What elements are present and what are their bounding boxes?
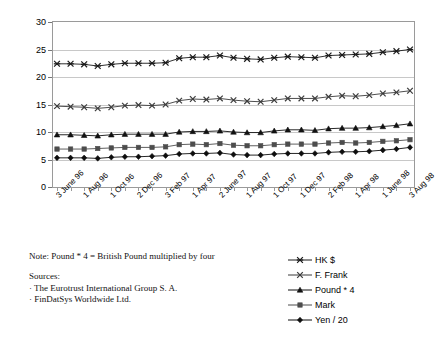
- legend-cross-icon: [287, 269, 313, 281]
- legend-diamond-icon: [287, 314, 313, 326]
- x-tick-mark: [125, 188, 126, 191]
- x-tick-mark: [315, 188, 316, 191]
- series-pound-4: [54, 121, 413, 138]
- y-tick-label: 15: [12, 101, 46, 110]
- series-mark: [55, 138, 412, 152]
- x-tick-mark: [288, 188, 289, 191]
- source-item: · FinDatSys Worldwide Ltd.: [29, 294, 244, 305]
- source-item: · The Eurotrust International Group S. A…: [29, 283, 244, 294]
- legend-item-mark[interactable]: Mark: [287, 297, 417, 312]
- line-chart: 0510152025303 June 961 Aug 961 Oct 962 D…: [0, 0, 437, 240]
- x-tick-mark: [369, 188, 370, 191]
- legend-item-label: Yen / 20: [313, 315, 348, 325]
- series-f-frank: [54, 88, 413, 111]
- y-tick-mark: [48, 187, 52, 188]
- footnote-block: Note: Pound * 4 = British Pound multipli…: [29, 251, 244, 305]
- legend-item-label: Pound * 4: [313, 285, 355, 295]
- y-tick-mark: [48, 132, 52, 133]
- x-tick-mark: [261, 188, 262, 191]
- x-tick-mark: [342, 188, 343, 191]
- legend-star-icon: [287, 254, 313, 266]
- x-tick-mark: [396, 188, 397, 191]
- legend-item-pound-4[interactable]: Pound * 4: [287, 282, 417, 297]
- x-tick-mark: [234, 188, 235, 191]
- y-tick-mark: [48, 50, 52, 51]
- x-tick-mark: [179, 188, 180, 191]
- plot-area: [52, 21, 415, 188]
- x-tick-mark: [98, 188, 99, 191]
- y-tick-mark: [48, 22, 52, 23]
- sources-title: Sources:: [29, 271, 244, 282]
- y-tick-label: 20: [12, 73, 46, 82]
- series-layer: [53, 22, 414, 187]
- legend-item-yen-20[interactable]: Yen / 20: [287, 312, 417, 327]
- x-tick-mark: [152, 188, 153, 191]
- chart-legend: HK $F. FrankPound * 4MarkYen / 20: [287, 252, 417, 327]
- y-tick-mark: [48, 160, 52, 161]
- y-tick-label: 0: [12, 183, 46, 192]
- x-tick-mark: [206, 188, 207, 191]
- y-tick-label: 25: [12, 46, 46, 55]
- legend-triangle-icon: [287, 284, 313, 296]
- legend-item-f-frank[interactable]: F. Frank: [287, 267, 417, 282]
- x-tick-mark: [71, 188, 72, 191]
- legend-square-icon: [287, 299, 313, 311]
- chart-page: 0510152025303 June 961 Aug 961 Oct 962 D…: [0, 0, 437, 340]
- legend-item-label: F. Frank: [313, 270, 348, 280]
- legend-item-hk[interactable]: HK $: [287, 252, 417, 267]
- note-text: Note: Pound * 4 = British Pound multipli…: [29, 251, 244, 262]
- legend-item-label: HK $: [313, 255, 335, 265]
- y-tick-mark: [48, 77, 52, 78]
- y-tick-label: 5: [12, 156, 46, 165]
- y-tick-label: 30: [12, 18, 46, 27]
- y-tick-label: 10: [12, 128, 46, 137]
- y-tick-mark: [48, 105, 52, 106]
- legend-item-label: Mark: [313, 300, 335, 310]
- series-hk: [54, 47, 413, 69]
